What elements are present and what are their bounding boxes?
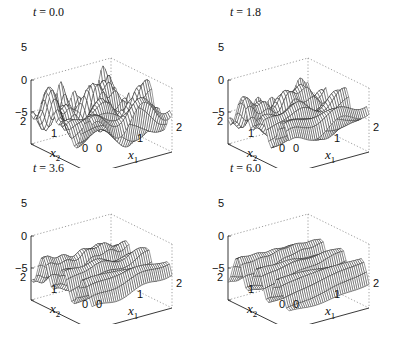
x1-tick-0: 0 [293,299,299,310]
x2-label-sub: 2 [253,309,258,319]
mesh-surface [31,241,172,307]
x2-tick-2: 2 [217,116,223,127]
x1-tick-0: 0 [293,143,299,154]
x1-tick-1: 1 [137,289,143,300]
x1-label-sub: 1 [134,311,139,321]
x2-tick-2: 2 [217,272,223,283]
z-tick-5: 5 [218,198,224,209]
x1-tick-0: 0 [96,143,102,154]
x2-axis-label: x2 [50,302,60,319]
x2-tick-0: 0 [82,299,88,310]
surface-panel-2: t = 3.6 5 0 −5 2 1 0 0 1 2 x2 x1 [0,156,197,324]
x1-tick-0: 0 [96,299,102,310]
z-tick-5: 5 [218,42,224,53]
x1-tick-1: 1 [334,289,340,300]
x2-tick-0: 0 [279,143,285,154]
surface-panel-3: t = 6.0 5 0 −5 2 1 0 0 1 2 x2 x1 [197,156,394,324]
x1-tick-1: 1 [334,133,340,144]
x2-tick-1: 1 [51,284,57,295]
z-tick-0: 0 [21,231,27,242]
x1-axis-label: x1 [325,304,335,321]
z-tick-0: 0 [21,75,27,86]
x1-tick-2: 2 [176,278,182,289]
x1-label-sub: 1 [331,311,336,321]
x2-tick-0: 0 [82,143,88,154]
z-tick-5: 5 [21,198,27,209]
x1-tick-2: 2 [373,278,379,289]
x2-tick-0: 0 [279,299,285,310]
z-tick-5: 5 [21,42,27,53]
z-tick-0: 0 [218,231,224,242]
x2-tick-2: 2 [20,116,26,127]
x2-tick-1: 1 [248,284,254,295]
surface-panel-1: t = 1.8 5 0 −5 2 1 0 0 1 2 x2 x1 [197,0,394,168]
z-tick-0: 0 [218,75,224,86]
x2-tick-2: 2 [20,272,26,283]
x1-tick-1: 1 [137,133,143,144]
x2-tick-1: 1 [248,128,254,139]
x1-tick-2: 2 [373,122,379,133]
x1-tick-2: 2 [176,122,182,133]
x1-axis-label: x1 [128,304,138,321]
x2-tick-1: 1 [51,128,57,139]
surface-panel-0: t = 0.0 5 0 −5 2 1 0 0 1 2 x2 x1 [0,0,197,168]
x2-label-sub: 2 [56,309,61,319]
x2-axis-label: x2 [247,302,257,319]
